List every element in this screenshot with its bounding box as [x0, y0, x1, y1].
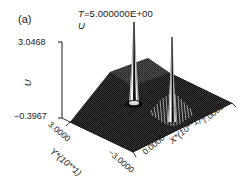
z-axis-max-tick: 3.0468 [18, 38, 46, 47]
title-quantity-label: U [78, 21, 85, 31]
surface-background-ridge [70, 58, 232, 152]
title-value: 5.000000E+00 [90, 8, 153, 19]
plot-title: T=5.000000E+00 [78, 9, 153, 19]
panel-label: (a) [18, 14, 31, 25]
figure-3d-surface-plot: (a) T=5.000000E+00 U 3.0468 −0.3967 U 0.… [0, 0, 247, 192]
z-axis-min-tick: −0.3967 [14, 112, 47, 121]
z-axis-label: U [23, 79, 33, 86]
